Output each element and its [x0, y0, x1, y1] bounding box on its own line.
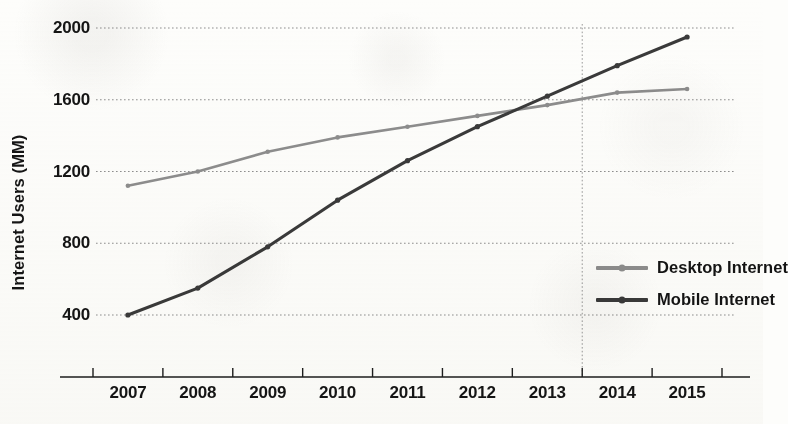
data-point	[405, 124, 410, 129]
data-point	[475, 124, 480, 129]
data-point	[265, 244, 270, 249]
data-point	[126, 184, 131, 189]
data-point	[545, 94, 550, 99]
series-line-desktop-internet	[128, 89, 687, 186]
data-point	[265, 150, 270, 155]
data-point	[615, 63, 620, 68]
data-point	[615, 90, 620, 95]
data-point	[125, 312, 130, 317]
legend-item-desktop-internet[interactable]: Desktop Internet	[596, 258, 788, 277]
data-point	[475, 114, 480, 119]
data-point	[196, 169, 201, 174]
chart-legend: Desktop InternetMobile Internet	[596, 258, 788, 309]
legend-item-mobile-internet[interactable]: Mobile Internet	[596, 290, 788, 309]
legend-label: Desktop Internet	[657, 258, 788, 277]
data-point	[335, 135, 340, 140]
data-point	[405, 158, 410, 163]
legend-swatch-icon	[596, 298, 648, 302]
x-axis-line	[60, 368, 750, 377]
data-point	[685, 34, 690, 39]
legend-swatch-icon	[596, 266, 648, 270]
data-point	[195, 286, 200, 291]
data-point	[335, 198, 340, 203]
legend-label: Mobile Internet	[657, 290, 775, 309]
data-point	[685, 87, 690, 92]
data-point	[545, 103, 550, 108]
